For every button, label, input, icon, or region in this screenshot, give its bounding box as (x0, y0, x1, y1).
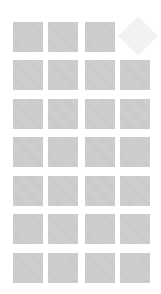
grid-tile[interactable] (120, 60, 150, 90)
grid-tile[interactable] (85, 253, 115, 283)
grid-tile[interactable] (48, 214, 78, 244)
grid-tile[interactable] (48, 253, 78, 283)
grid-tile[interactable] (120, 214, 150, 244)
grid-tile[interactable] (48, 137, 78, 167)
grid-tile[interactable] (120, 137, 150, 167)
diamond-placeholder-icon (118, 16, 158, 56)
grid-tile[interactable] (120, 176, 150, 206)
grid-tile[interactable] (85, 22, 115, 52)
grid-tile[interactable] (48, 22, 78, 52)
grid-tile[interactable] (85, 137, 115, 167)
grid-tile[interactable] (85, 99, 115, 129)
grid-tile[interactable] (120, 99, 150, 129)
grid-tile[interactable] (13, 176, 43, 206)
grid-tile[interactable] (13, 22, 43, 52)
grid-tile[interactable] (13, 60, 43, 90)
grid-tile[interactable] (85, 214, 115, 244)
grid-tile[interactable] (48, 176, 78, 206)
grid-tile[interactable] (13, 99, 43, 129)
grid-tile[interactable] (13, 253, 43, 283)
grid-tile[interactable] (85, 60, 115, 90)
grid-tile[interactable] (48, 99, 78, 129)
grid-tile[interactable] (120, 253, 150, 283)
grid-tile[interactable] (13, 137, 43, 167)
tile-grid (0, 0, 161, 294)
grid-tile[interactable] (13, 214, 43, 244)
grid-tile[interactable] (85, 176, 115, 206)
grid-tile[interactable] (48, 60, 78, 90)
